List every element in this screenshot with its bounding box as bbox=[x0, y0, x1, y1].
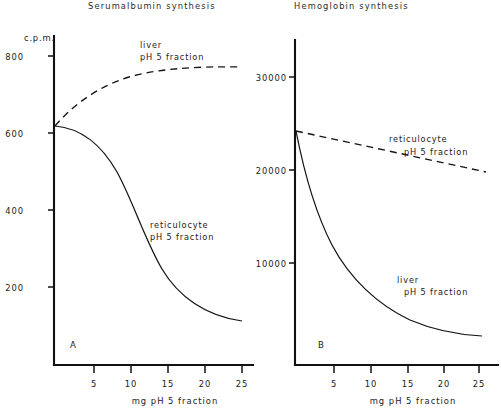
panel-b-ytick-20000-label: 20000 bbox=[256, 166, 287, 176]
panel-a-label-reticulocyte-line1: reticulocyte bbox=[150, 220, 208, 230]
figure-root: Serumalbumin synthesis c.p.m. 800 600 40… bbox=[0, 0, 501, 411]
panel-a-plot: c.p.m. 800 600 400 200 5 10 15 20 25 mg … bbox=[0, 0, 258, 411]
panel-a-ytick-800-label: 800 bbox=[5, 52, 24, 62]
panel-b-ytick-30000-label: 30000 bbox=[256, 73, 287, 83]
panel-b-label-reticulocyte-line1: reticulocyte bbox=[389, 134, 447, 144]
panel-a-label-liver-line2: pH 5 fraction bbox=[140, 52, 204, 62]
panel-a-ytick-600-label: 600 bbox=[5, 129, 24, 139]
panel-a-xtick-10-label: 10 bbox=[125, 379, 137, 389]
panel-a-curve-reticulocyte bbox=[55, 126, 242, 321]
panel-serumalbumin: Serumalbumin synthesis c.p.m. 800 600 40… bbox=[0, 0, 258, 411]
panel-b-label-liver-line2: pH 5 fraction bbox=[404, 287, 468, 297]
panel-a-ytick-200-label: 200 bbox=[5, 283, 24, 293]
panel-b-xtick-25-label: 25 bbox=[473, 379, 485, 389]
panel-b-x-axis-caption: mg pH 5 fraction bbox=[370, 396, 457, 406]
panel-a-xtick-20-label: 20 bbox=[199, 379, 211, 389]
panel-a-xtick-5-label: 5 bbox=[91, 379, 97, 389]
panel-hemoglobin: Hemoglobin synthesis 30000 20000 10000 5… bbox=[258, 0, 501, 411]
panel-a-x-axis-caption: mg pH 5 fraction bbox=[132, 396, 219, 406]
panel-b-plot: 30000 20000 10000 5 10 15 20 25 mg pH 5 … bbox=[258, 0, 501, 411]
panel-b-curve-liver bbox=[296, 131, 482, 336]
panel-b-xtick-10-label: 10 bbox=[365, 379, 377, 389]
panel-a-ytick-400-label: 400 bbox=[5, 206, 24, 216]
panel-b-label-reticulocyte-line2: pH 5 fraction bbox=[404, 147, 468, 157]
panel-a-y-axis-unit: c.p.m. bbox=[24, 33, 55, 43]
panel-b-xtick-20-label: 20 bbox=[438, 379, 450, 389]
panel-a-label-liver-line1: liver bbox=[140, 40, 162, 50]
panel-a-xtick-25-label: 25 bbox=[236, 379, 248, 389]
panel-b-letter: B bbox=[318, 340, 325, 350]
panel-b-label-liver-line1: liver bbox=[397, 275, 419, 285]
panel-a-curve-liver bbox=[55, 67, 242, 126]
panel-a-label-reticulocyte-line2: pH 5 fraction bbox=[150, 232, 214, 242]
panel-b-ytick-10000-label: 10000 bbox=[256, 259, 287, 269]
panel-a-letter: A bbox=[70, 340, 76, 350]
panel-a-xtick-15-label: 15 bbox=[162, 379, 174, 389]
panel-b-xtick-5-label: 5 bbox=[331, 379, 337, 389]
panel-b-xtick-15-label: 15 bbox=[402, 379, 414, 389]
